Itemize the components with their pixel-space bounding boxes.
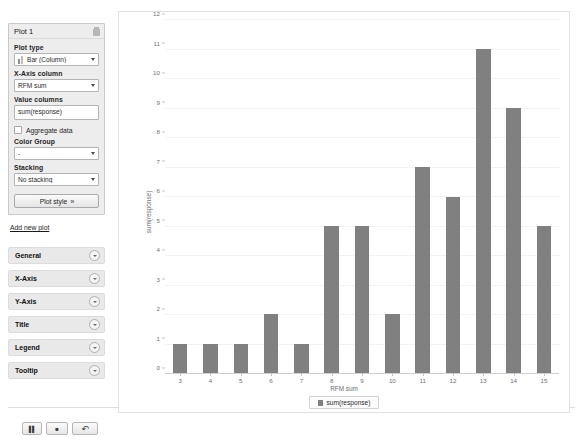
plot-area: 0123456789101112 3456789101112131415 [165, 20, 559, 374]
pause-button[interactable]: ▐▌ [22, 422, 42, 435]
color-group-label: Color Group [14, 138, 99, 145]
bottom-toolbar: ▐▌ ■ ↶ [0, 412, 113, 446]
y-axis-tick-label: 2 [157, 305, 160, 312]
value-columns-value: sum(response) [18, 108, 62, 115]
legend-label: sum(response) [327, 399, 371, 406]
bar-cell: 12 [438, 20, 468, 373]
plot-style-button-label: Plot style [40, 198, 68, 205]
stop-icon: ■ [55, 426, 59, 432]
bar-cell: 15 [529, 20, 559, 373]
value-columns-field[interactable]: sum(response) [14, 105, 99, 120]
y-axis-tick-label: 11 [154, 39, 160, 46]
chevron-down-circle-icon[interactable] [89, 319, 100, 330]
bar-cell: 9 [347, 20, 377, 373]
y-axis-tick-label: 5 [157, 216, 160, 223]
undo-icon: ↶ [81, 424, 89, 434]
chevron-down-circle-icon[interactable] [89, 296, 100, 307]
y-axis-tick-label: 12 [153, 10, 160, 17]
y-tick-mark [162, 13, 165, 14]
bar[interactable] [173, 344, 188, 373]
aggregate-data-label: Aggregate data [26, 127, 72, 134]
bar[interactable] [446, 197, 461, 374]
aggregate-data-checkbox[interactable] [14, 126, 22, 134]
x-tick-mark [332, 373, 333, 376]
chevron-down-circle-icon[interactable] [89, 342, 100, 353]
x-axis-column-select[interactable]: RFM sum [14, 79, 99, 92]
sidebar-section-title[interactable]: Title [8, 316, 105, 333]
x-tick-mark [301, 373, 302, 376]
legend-swatch-icon [318, 400, 323, 406]
section-label: Y-Axis [15, 298, 36, 305]
sidebar-section-general[interactable]: General [8, 247, 105, 264]
x-axis-tick-label: 9 [360, 377, 363, 384]
bar-cell: 14 [498, 20, 528, 373]
chart-panel: sum(response) 0123456789101112 345678910… [118, 11, 570, 413]
bar[interactable] [324, 226, 339, 373]
plot-panel: Plot 1 Plot type Bar (Column) X-Axis col… [8, 23, 105, 215]
aggregate-data-row[interactable]: Aggregate data [14, 126, 99, 134]
bar[interactable] [415, 167, 430, 373]
x-axis-title: RFM sum [119, 385, 569, 392]
bar-cell: 7 [286, 20, 316, 373]
bar[interactable] [385, 314, 400, 373]
color-group-select[interactable]: - [14, 147, 99, 160]
y-axis-tick-label: 4 [157, 246, 160, 253]
sidebar-section-legend[interactable]: Legend [8, 339, 105, 356]
plot-panel-body: Plot type Bar (Column) X-Axis column RFM… [9, 39, 104, 214]
chevron-down-icon [91, 152, 95, 155]
sidebar-section-tooltip[interactable]: Tooltip [8, 362, 105, 379]
x-tick-mark [180, 373, 181, 376]
x-tick-mark [241, 373, 242, 376]
plot-type-label: Plot type [14, 44, 99, 51]
x-axis-tick-label: 11 [419, 377, 425, 384]
x-axis-tick-label: 4 [209, 377, 212, 384]
bar[interactable] [203, 344, 218, 373]
stacking-select[interactable]: No stacking [14, 173, 99, 186]
legend-item[interactable]: sum(response) [309, 396, 380, 409]
bar[interactable] [294, 344, 309, 373]
x-tick-mark [544, 373, 545, 376]
chevron-down-circle-icon[interactable] [89, 273, 100, 284]
plot-panel-title: Plot 1 [14, 27, 33, 36]
trash-icon[interactable] [93, 27, 100, 36]
chevron-down-icon [91, 178, 95, 181]
chevron-down-icon [91, 84, 95, 87]
x-axis-tick-label: 14 [510, 377, 517, 384]
bar[interactable] [234, 344, 249, 373]
bar[interactable] [355, 226, 370, 373]
y-axis-title: sum(response) [145, 191, 152, 234]
bar-cell: 5 [226, 20, 256, 373]
plot-settings-sidebar: Plot 1 Plot type Bar (Column) X-Axis col… [0, 18, 113, 446]
undo-button[interactable]: ↶ [72, 422, 98, 435]
x-tick-mark [362, 373, 363, 376]
y-axis-tick-label: 8 [157, 128, 160, 135]
sidebar-section-x-axis[interactable]: X-Axis [8, 270, 105, 287]
section-label: Legend [15, 344, 40, 351]
bar[interactable] [506, 108, 521, 373]
x-tick-mark [423, 373, 424, 376]
section-label: General [15, 252, 41, 259]
bar[interactable] [264, 314, 279, 373]
x-axis-tick-label: 8 [330, 377, 333, 384]
section-label: Title [15, 321, 29, 328]
bar[interactable] [476, 49, 491, 373]
x-axis-column-label: X-Axis column [14, 70, 99, 77]
bar[interactable] [537, 226, 552, 373]
stop-button[interactable]: ■ [46, 422, 68, 435]
chevron-down-circle-icon[interactable] [89, 365, 100, 376]
sidebar-section-y-axis[interactable]: Y-Axis [8, 293, 105, 310]
plot-style-button[interactable]: Plot style » [14, 194, 99, 208]
bar-cell: 3 [165, 20, 195, 373]
add-new-plot-link[interactable]: Add new plot [10, 224, 49, 231]
x-tick-mark [514, 373, 515, 376]
chevron-down-circle-icon[interactable] [89, 250, 100, 261]
section-label: Tooltip [15, 367, 38, 374]
color-group-value: - [18, 150, 88, 157]
x-axis-tick-label: 10 [389, 377, 396, 384]
plot-type-select[interactable]: Bar (Column) [14, 53, 99, 66]
x-axis-tick-label: 12 [450, 377, 457, 384]
chart-legend: sum(response) [119, 396, 569, 409]
bar-cell: 6 [256, 20, 286, 373]
bar-cell: 8 [317, 20, 347, 373]
stacking-label: Stacking [14, 164, 99, 171]
